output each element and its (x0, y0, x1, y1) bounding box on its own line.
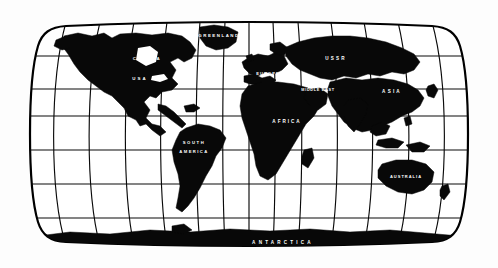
world-map-figure: GREENLANDCANADAUSSRUSAEUROPEMIDDLE EASTA… (0, 0, 498, 268)
world-map-svg: GREENLANDCANADAUSSRUSAEUROPEMIDDLE EASTA… (0, 0, 498, 268)
